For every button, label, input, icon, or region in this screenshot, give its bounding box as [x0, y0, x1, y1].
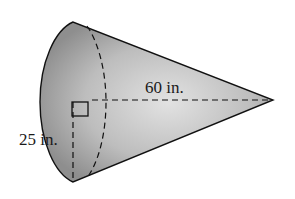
- cone-figure: 60 in. 25 in.: [0, 0, 295, 199]
- cone-diagram: 60 in. 25 in.: [0, 0, 295, 199]
- height-label: 60 in.: [145, 78, 184, 97]
- radius-label: 25 in.: [19, 130, 58, 149]
